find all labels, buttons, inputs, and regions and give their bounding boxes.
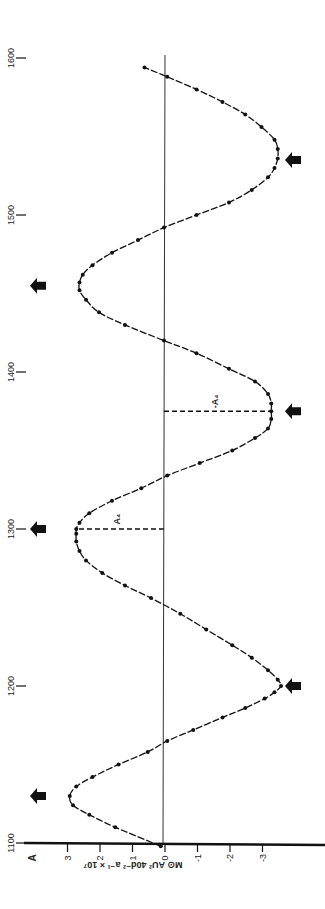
- data-point: [110, 499, 114, 503]
- value-tick-label: 2: [95, 855, 105, 860]
- data-point: [74, 784, 78, 788]
- data-point: [276, 147, 280, 151]
- data-point: [266, 392, 270, 396]
- data-point: [91, 775, 95, 779]
- data-point: [117, 763, 121, 767]
- chart: 110012001300140015001600 3210-1-2-3 A₄-A…: [0, 0, 325, 909]
- data-point: [266, 427, 270, 431]
- data-point: [273, 138, 277, 142]
- data-point: [113, 825, 117, 829]
- data-point: [250, 656, 254, 660]
- value-tick-label: -2: [225, 854, 235, 862]
- data-point: [243, 113, 247, 117]
- data-point: [100, 571, 104, 575]
- arrow-markers: [30, 152, 301, 804]
- arrow-left-icon: [285, 678, 301, 694]
- time-tick-label: 1600: [6, 48, 16, 68]
- data-curve: [70, 67, 282, 846]
- data-point: [273, 690, 277, 694]
- data-point: [178, 612, 182, 616]
- data-point: [269, 401, 273, 405]
- data-point: [204, 627, 208, 631]
- data-point: [221, 100, 225, 104]
- data-point: [78, 288, 82, 292]
- data-point: [279, 684, 283, 688]
- data-point: [81, 273, 85, 277]
- data-point: [273, 166, 277, 170]
- data-point: [253, 379, 257, 383]
- data-point: [191, 728, 195, 732]
- data-point: [91, 263, 95, 267]
- zero-line: [163, 55, 165, 843]
- data-point: [230, 449, 234, 453]
- data-point: [78, 281, 82, 285]
- arrow-left-icon: [30, 278, 46, 294]
- arrow-left-icon: [30, 521, 46, 537]
- data-point: [74, 532, 78, 536]
- data-point: [195, 87, 199, 91]
- data-point: [269, 409, 273, 413]
- data-point: [253, 436, 257, 440]
- arrow-left-icon: [285, 152, 301, 168]
- time-tick-label: 1100: [6, 833, 16, 852]
- data-point: [78, 549, 82, 553]
- data-point: [276, 678, 280, 682]
- data-point: [71, 803, 75, 807]
- data-point: [146, 750, 150, 754]
- value-tick-label: -3: [258, 854, 268, 862]
- data-point: [78, 521, 82, 525]
- data-point: [263, 697, 267, 701]
- data-point: [230, 643, 234, 647]
- data-point: [165, 739, 169, 743]
- data-point: [227, 200, 231, 204]
- data-point: [110, 251, 114, 255]
- annotation-label: -A₄: [210, 394, 220, 408]
- value-tick-label: 1: [128, 855, 138, 860]
- data-point: [123, 323, 127, 327]
- data-point: [195, 213, 199, 217]
- data-point: [198, 461, 202, 465]
- annotations: A₄-A₄: [76, 394, 271, 529]
- data-point: [84, 558, 88, 562]
- data-point: [165, 75, 169, 79]
- data-point: [74, 540, 78, 544]
- data-point: [195, 351, 199, 355]
- data-point: [84, 298, 88, 302]
- data-point: [227, 367, 231, 371]
- data-point: [143, 65, 147, 69]
- value-axis: [24, 843, 325, 845]
- time-tick-label: 1300: [6, 519, 16, 539]
- data-point: [260, 125, 264, 129]
- time-axis-label: A: [27, 854, 38, 861]
- time-tick-label: 1400: [6, 362, 16, 382]
- data-point: [269, 417, 273, 421]
- data-point: [68, 794, 72, 798]
- data-point: [250, 188, 254, 192]
- data-point: [165, 474, 169, 478]
- value-tick-label: 0: [160, 855, 170, 860]
- arrow-left-icon: [285, 403, 301, 419]
- data-points: [68, 65, 283, 848]
- data-point: [123, 584, 127, 588]
- data-point: [159, 844, 163, 848]
- data-point: [87, 511, 91, 515]
- data-point: [162, 226, 166, 230]
- data-point: [149, 596, 153, 600]
- arrow-left-icon: [30, 788, 46, 804]
- data-point: [87, 813, 91, 817]
- data-point: [74, 527, 78, 531]
- value-axis-ticks: 3210-1-2-3: [63, 844, 268, 862]
- data-point: [243, 706, 247, 710]
- annotation-label: A₄: [112, 514, 122, 525]
- value-axis-label: M⊙ AU² 40d⁻² a⁻¹ × 10⁷: [83, 860, 182, 870]
- data-point: [139, 486, 143, 490]
- time-tick-label: 1500: [6, 205, 16, 225]
- data-point: [162, 339, 166, 343]
- data-point: [136, 238, 140, 242]
- data-point: [221, 715, 225, 719]
- data-point: [276, 156, 280, 160]
- data-point: [97, 310, 101, 314]
- time-axis: 110012001300140015001600: [6, 48, 26, 853]
- value-tick-label: 3: [63, 855, 73, 860]
- value-tick-label: -1: [193, 854, 203, 862]
